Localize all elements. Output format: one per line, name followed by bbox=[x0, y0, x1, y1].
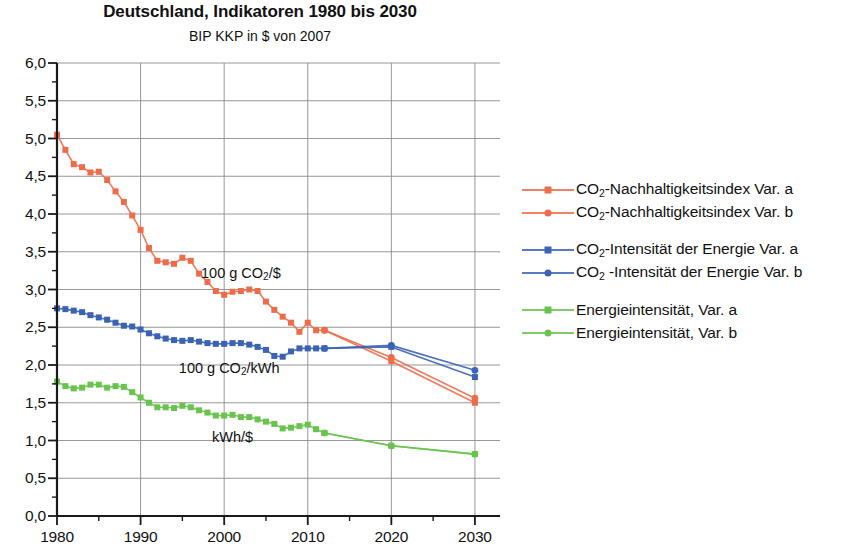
series-marker-square bbox=[62, 306, 68, 312]
series-marker-square bbox=[246, 287, 252, 293]
series-marker-square bbox=[305, 345, 311, 351]
series-marker-square bbox=[296, 423, 302, 429]
series-marker-circle bbox=[472, 367, 479, 374]
series-marker-square bbox=[163, 336, 169, 342]
legend-swatch-icon bbox=[520, 178, 576, 201]
subscript: 2 bbox=[599, 210, 605, 222]
legend-item-label: Energieintensität, Var. b bbox=[576, 324, 737, 342]
page-subtitle: BIP KKP in $ von 2007 bbox=[0, 28, 520, 44]
series-marker-square bbox=[263, 419, 269, 425]
series-marker-circle bbox=[388, 442, 395, 449]
series-marker-square bbox=[129, 389, 135, 395]
series-marker-circle bbox=[388, 342, 395, 349]
series-marker-square bbox=[138, 327, 144, 333]
series-marker-square bbox=[104, 317, 110, 323]
series-marker-square bbox=[255, 288, 261, 294]
series-marker-square bbox=[280, 354, 286, 360]
series-marker-circle bbox=[472, 395, 479, 402]
chart-legend: CO2-Nachhaltigkeitsindex Var. aCO2-Nachh… bbox=[520, 178, 863, 358]
series-marker-square bbox=[129, 324, 135, 330]
series-marker-square bbox=[154, 404, 160, 410]
series-line bbox=[57, 382, 475, 454]
series-marker-square bbox=[313, 345, 319, 351]
legend-swatch-icon bbox=[520, 201, 576, 224]
series-marker-square bbox=[246, 342, 252, 348]
annotation-text: kWh/$ bbox=[212, 429, 253, 445]
series-marker-square bbox=[138, 394, 144, 400]
series-marker-square bbox=[121, 323, 127, 329]
series-marker-square bbox=[305, 320, 311, 326]
legend-item-label: CO2-Intensität der Energie Var. a bbox=[576, 240, 798, 259]
series-marker-square bbox=[196, 407, 202, 413]
series-marker-square bbox=[213, 288, 219, 294]
series-marker-square bbox=[221, 292, 227, 298]
series-3 bbox=[321, 342, 478, 374]
annotation-text: 100 g CO2/$ bbox=[201, 264, 281, 280]
series-marker-square bbox=[221, 341, 227, 347]
legend-swatch-icon bbox=[520, 321, 576, 344]
y-tick-label: 1,5 bbox=[0, 394, 46, 412]
series-marker-square bbox=[104, 385, 110, 391]
series-marker-square bbox=[288, 320, 294, 326]
series-marker-square bbox=[113, 188, 119, 194]
legend-item-label: CO2-Nachhaltigkeitsindex Var. b bbox=[576, 203, 793, 222]
subscript: 2 bbox=[599, 187, 605, 199]
series-marker-square bbox=[472, 374, 478, 380]
subscript: 2 bbox=[599, 247, 605, 259]
x-tick-label: 2000 bbox=[194, 528, 254, 546]
series-marker-square bbox=[96, 314, 102, 320]
legend-item[interactable]: CO2 -Intensität der Energie Var. b bbox=[520, 261, 863, 284]
series-marker-square bbox=[230, 289, 236, 295]
series-marker-circle bbox=[321, 327, 328, 334]
series-marker-square bbox=[271, 307, 277, 313]
series-marker-square bbox=[213, 341, 219, 347]
series-marker-circle bbox=[321, 345, 328, 352]
series-marker-square bbox=[163, 259, 169, 265]
series-marker-square bbox=[313, 426, 319, 432]
legend-swatch-icon bbox=[520, 298, 576, 321]
series-marker-square bbox=[171, 405, 177, 411]
y-tick-label: 3,5 bbox=[0, 243, 46, 261]
series-marker-square bbox=[255, 416, 261, 422]
y-tick-label: 5,0 bbox=[0, 130, 46, 148]
series-marker-circle bbox=[388, 354, 395, 361]
legend-item[interactable]: CO2-Nachhaltigkeitsindex Var. b bbox=[520, 201, 863, 224]
series-marker-square bbox=[246, 414, 252, 420]
y-tick-label: 2,5 bbox=[0, 318, 46, 336]
series-marker-square bbox=[96, 382, 102, 388]
subscript: 2 bbox=[241, 366, 247, 377]
series-marker-square bbox=[79, 385, 85, 391]
series-marker-square bbox=[230, 340, 236, 346]
series-marker-square bbox=[296, 345, 302, 351]
page-title: Deutschland, Indikatoren 1980 bis 2030 bbox=[0, 2, 520, 22]
series-marker-square bbox=[113, 383, 119, 389]
y-tick-label: 3,0 bbox=[0, 281, 46, 299]
legend-group: CO2-Nachhaltigkeitsindex Var. aCO2-Nachh… bbox=[520, 178, 863, 224]
series-marker-square bbox=[62, 147, 68, 153]
series-marker-square bbox=[79, 309, 85, 315]
legend-item-label: CO2 -Intensität der Energie Var. b bbox=[576, 263, 802, 282]
y-tick-label: 6,0 bbox=[0, 54, 46, 72]
legend-item[interactable]: Energieintensität, Var. b bbox=[520, 321, 863, 344]
series-marker-square bbox=[146, 330, 152, 336]
legend-item[interactable]: CO2-Intensität der Energie Var. a bbox=[520, 238, 863, 261]
series-marker-square bbox=[62, 383, 68, 389]
x-tick-label: 2030 bbox=[445, 528, 505, 546]
chart-annotation: 100 g CO2/$ bbox=[201, 264, 281, 281]
series-marker-square bbox=[271, 421, 277, 427]
series-marker-square bbox=[87, 312, 93, 318]
series-marker-square bbox=[188, 258, 194, 264]
series-marker-square bbox=[280, 425, 286, 431]
legend-item[interactable]: CO2-Nachhaltigkeitsindex Var. a bbox=[520, 178, 863, 201]
series-marker-square bbox=[263, 347, 269, 353]
series-5 bbox=[321, 430, 478, 458]
series-marker-circle bbox=[321, 430, 328, 437]
y-tick-label: 5,5 bbox=[0, 92, 46, 110]
series-marker-square bbox=[179, 403, 185, 409]
legend-item[interactable]: Energieintensität, Var. a bbox=[520, 298, 863, 321]
series-marker-square bbox=[171, 337, 177, 343]
series-marker-square bbox=[154, 258, 160, 264]
series-marker-square bbox=[305, 422, 311, 428]
chart-annotation: kWh/$ bbox=[212, 429, 253, 445]
series-marker-square bbox=[313, 327, 319, 333]
